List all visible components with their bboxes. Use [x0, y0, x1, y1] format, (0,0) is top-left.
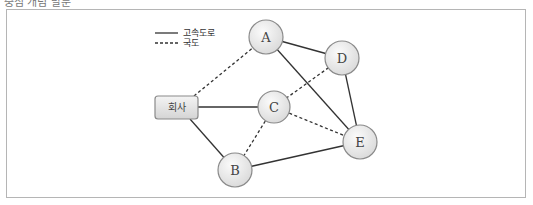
node-company-label: 회사 [168, 102, 186, 113]
road-network-diagram: 고속도로 국도 회사 A D C E B [0, 0, 533, 205]
node-d: D [325, 41, 359, 75]
node-e-label: E [355, 135, 365, 150]
legend-dashed-label: 국도 [183, 38, 199, 48]
legend-solid-label: 고속도로 [183, 28, 215, 38]
node-b-label: B [230, 163, 240, 178]
edge-b-e [235, 142, 360, 170]
node-c: C [258, 91, 290, 123]
node-d-label: D [337, 51, 347, 66]
node-e: E [343, 125, 377, 159]
node-a: A [249, 20, 283, 54]
node-a-label: A [260, 30, 271, 45]
node-company: 회사 [155, 96, 198, 119]
node-b: B [218, 153, 252, 187]
node-c-label: C [269, 100, 279, 115]
legend: 고속도로 국도 [155, 28, 215, 48]
